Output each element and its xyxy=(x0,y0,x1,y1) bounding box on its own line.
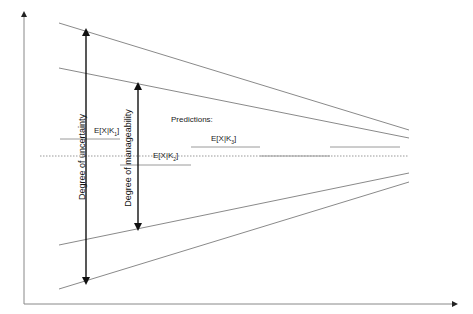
prediction-label-k2-prefix: E[X|K xyxy=(153,151,173,160)
prediction-label-k3-suffix: ] xyxy=(234,134,236,143)
prediction-label-k2: E[X|K2] xyxy=(153,151,178,162)
uncertainty-funnel-diagram xyxy=(0,0,473,314)
prediction-label-k2-suffix: ] xyxy=(176,151,178,160)
prediction-label-k1-prefix: E[X|K xyxy=(94,126,114,135)
prediction-label-k3-prefix: E[X|K xyxy=(211,134,231,143)
manageability-label: Degree of manageability xyxy=(123,98,133,218)
prediction-label-k1: E[X|K1] xyxy=(94,126,119,137)
prediction-label-k1-suffix: ] xyxy=(117,126,119,135)
outer-lower-bound-line xyxy=(59,182,409,289)
uncertainty-label: Degree of uncertainty xyxy=(77,97,87,217)
outer-upper-bound-line xyxy=(59,23,409,130)
inner-lower-bound-line xyxy=(59,173,409,245)
axes xyxy=(24,14,455,304)
prediction-label-k3: E[X|K3] xyxy=(211,134,236,145)
predictions-title: Predictions: xyxy=(171,115,213,124)
